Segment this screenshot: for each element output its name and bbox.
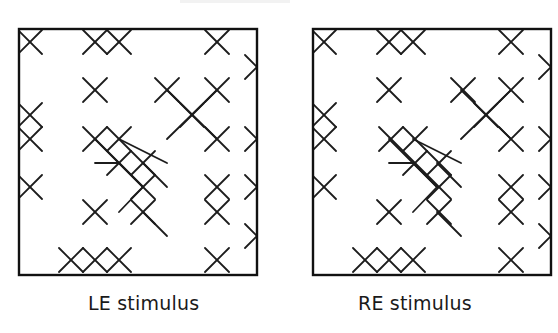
stimulus-frame bbox=[313, 29, 551, 275]
re-stimulus-figure bbox=[0, 0, 558, 290]
re-stimulus-panel: RE stimulus bbox=[0, 0, 558, 333]
cross-elements bbox=[312, 30, 558, 272]
re-stimulus-caption: RE stimulus bbox=[358, 292, 472, 314]
